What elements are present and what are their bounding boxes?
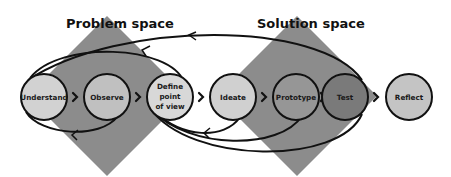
node-label: Test bbox=[337, 93, 354, 102]
node-reflect: Reflect bbox=[386, 74, 432, 120]
node-label: Define bbox=[157, 82, 183, 91]
node-prototype: Prototype bbox=[273, 74, 319, 120]
node-label: Observe bbox=[90, 93, 124, 102]
node-label: point bbox=[159, 92, 181, 101]
node-define: Define point of view bbox=[147, 74, 193, 120]
node-understand: Understand bbox=[20, 74, 67, 120]
node-label: Prototype bbox=[276, 93, 316, 102]
node-test: Test bbox=[322, 74, 368, 120]
design-thinking-diagram: Problem space Solution space bbox=[0, 0, 451, 177]
solution-space-title: Solution space bbox=[257, 16, 365, 31]
node-label: of view bbox=[155, 102, 185, 111]
node-observe: Observe bbox=[84, 74, 130, 120]
node-ideate: Ideate bbox=[210, 74, 256, 120]
node-label: Understand bbox=[20, 93, 67, 102]
problem-space-title: Problem space bbox=[66, 16, 174, 31]
node-label: Reflect bbox=[395, 93, 424, 102]
node-label: Ideate bbox=[220, 93, 246, 102]
chevron-right-icon bbox=[199, 93, 203, 101]
